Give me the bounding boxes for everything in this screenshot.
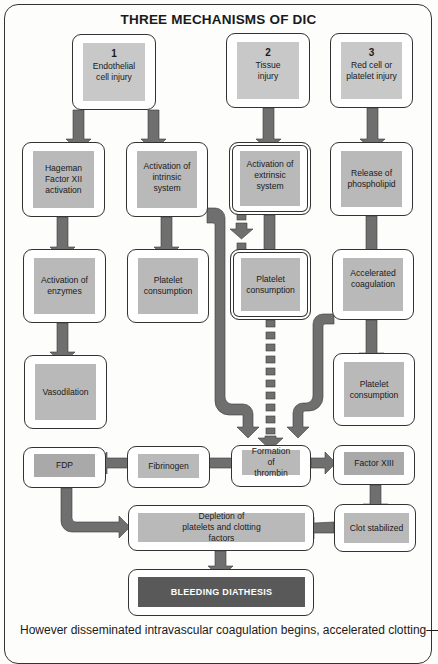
connector-path	[207, 208, 259, 438]
depletion-label: Depletion of platelets and clotting fact…	[138, 513, 305, 542]
accelerated-coagulation-box: Accelerated coagulation	[332, 249, 414, 320]
clot-stabilized-label: Clot stabilized	[344, 513, 409, 543]
fibrinogen-label: Fibrinogen	[138, 454, 199, 478]
mechanism-label: Endothelial cell injury	[86, 61, 142, 83]
fdp-box: FDP	[23, 447, 106, 488]
intrinsic-label: Activation of intrinsic system	[137, 151, 197, 208]
bleeding-diathesis-box: BLEEDING DIATHESIS	[128, 569, 314, 616]
platelet-consumption-3-label: Platelet consumption	[344, 362, 404, 417]
phospholipid-label: Release of phospholipid	[341, 151, 402, 207]
mechanism-2-box: 2 Tissue injury	[226, 33, 310, 108]
enzymes-label: Activation of enzymes	[34, 258, 95, 314]
mechanism-label: Red cell or platelet injury	[344, 60, 399, 82]
factor-xiii-label: Factor XIII	[344, 452, 404, 475]
mechanism-number: 1	[111, 47, 117, 61]
platelet-consumption-3-box: Platelet consumption	[333, 353, 415, 426]
enzymes-box: Activation of enzymes	[23, 249, 106, 323]
mechanism-1-box: 1 Endothelial cell injury	[72, 34, 156, 110]
extrinsic-box: Activation of extrinsic system	[229, 142, 311, 215]
mechanism-number: 3	[369, 46, 375, 60]
thrombin-label: Formation of thrombin	[242, 450, 300, 475]
platelet-consumption-1-label: Platelet consumption	[138, 258, 198, 314]
mechanism-label: Tissue injury	[240, 60, 296, 82]
bleeding-diathesis-label: BLEEDING DIATHESIS	[138, 577, 305, 607]
mechanism-3-box: 3 Red cell or platelet injury	[330, 33, 413, 108]
platelet-consumption-1-box: Platelet consumption	[127, 249, 209, 323]
platelet-consumption-2-box: Platelet consumption	[230, 249, 311, 320]
extrinsic-label: Activation of extrinsic system	[240, 151, 300, 206]
accelerated-coagulation-label: Accelerated coagulation	[343, 258, 403, 311]
platelet-consumption-2-label: Platelet consumption	[241, 258, 300, 311]
figure-caption: However disseminated intravascular coagu…	[20, 623, 438, 637]
fibrinogen-box: Fibrinogen	[127, 446, 210, 488]
intrinsic-box: Activation of intrinsic system	[126, 142, 208, 217]
hageman-box: Hageman Factor XII activation	[22, 142, 105, 217]
clot-stabilized-box: Clot stabilized	[334, 504, 416, 552]
vasodilation-box: Vasodilation	[24, 355, 107, 429]
connector-path	[287, 314, 334, 438]
depletion-box: Depletion of platelets and clotting fact…	[128, 505, 314, 551]
arrow-down-icon	[230, 223, 253, 239]
factor-xiii-box: Factor XIII	[333, 445, 415, 485]
vasodilation-label: Vasodilation	[35, 364, 96, 420]
hageman-label: Hageman Factor XII activation	[33, 151, 94, 208]
mechanism-number: 2	[265, 46, 271, 60]
thrombin-box: Formation of thrombin	[231, 445, 311, 487]
connector-path	[61, 488, 130, 538]
fdp-label: FDP	[34, 454, 95, 477]
phospholipid-box: Release of phospholipid	[330, 142, 413, 216]
